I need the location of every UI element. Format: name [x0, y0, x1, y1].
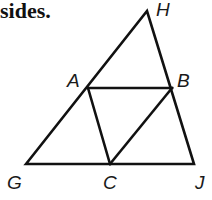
label-G: G: [7, 172, 22, 194]
triangle-figure: [0, 0, 212, 200]
label-B: B: [177, 70, 190, 92]
segment-AC: [88, 88, 110, 164]
segment-BC: [110, 88, 172, 164]
label-A: A: [67, 70, 80, 92]
label-J: J: [195, 172, 205, 194]
label-H: H: [156, 0, 170, 21]
label-C: C: [103, 172, 117, 194]
